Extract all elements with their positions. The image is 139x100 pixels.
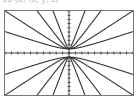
- plot: [5, 11, 133, 95]
- graph-screen: [4, 10, 134, 96]
- caption: 18 (a) (x, y, z): [2, 0, 59, 4]
